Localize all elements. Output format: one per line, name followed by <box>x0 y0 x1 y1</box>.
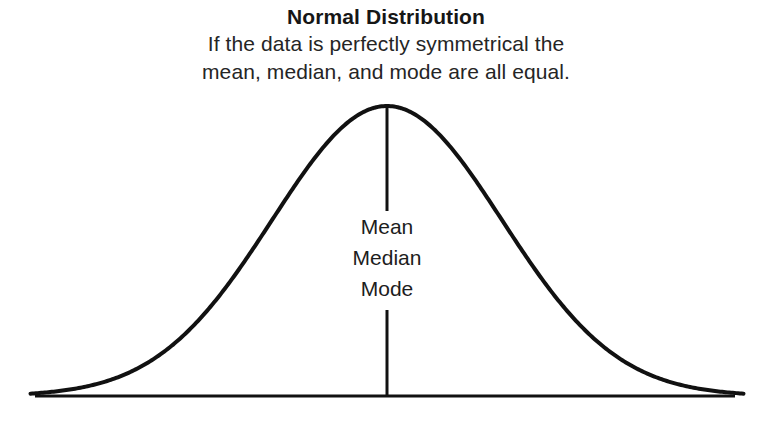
normal-distribution-figure: Normal Distribution If the data is perfe… <box>0 0 772 434</box>
label-median: Median <box>353 242 422 273</box>
label-mode: Mode <box>353 273 422 304</box>
label-mean: Mean <box>353 211 422 242</box>
center-label-stack: Mean Median Mode <box>345 211 430 304</box>
